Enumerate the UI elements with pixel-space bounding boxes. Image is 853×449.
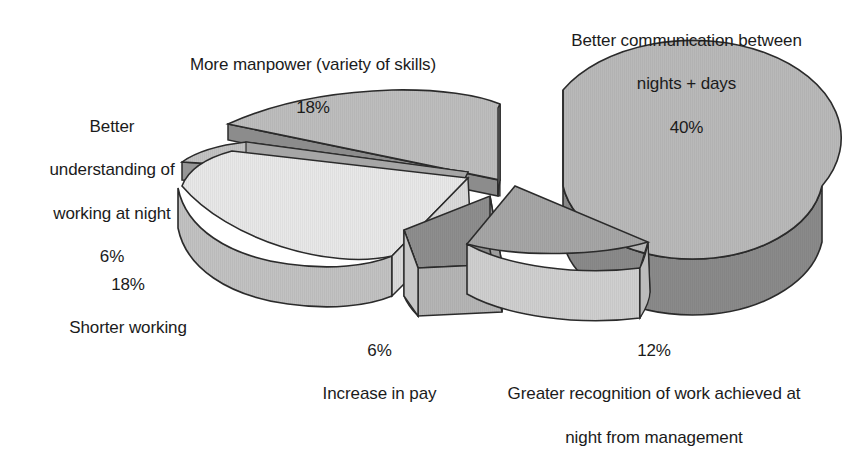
label-line-1: More manpower (variety of skills): [190, 55, 436, 74]
label-percent: 18%: [18, 274, 238, 296]
label-line-2: understanding of: [49, 160, 174, 179]
label-line-1: Shorter working: [69, 318, 187, 337]
slice-label-greater-recognition: 12% Greater recognition of work achieved…: [455, 318, 853, 449]
label-line-1: Better: [90, 117, 135, 136]
slice-label-better-communication: Better communication between nights + da…: [520, 8, 853, 160]
slice-more-manpower-rightwall: [498, 104, 500, 196]
label-line-1: Greater recognition of work achieved at: [508, 384, 801, 403]
label-percent: 12%: [455, 340, 853, 362]
label-line-3: working at night: [53, 204, 170, 223]
slice-label-shorter-working: 18% Shorter working: [18, 252, 238, 339]
label-line-1: Increase in pay: [323, 384, 437, 403]
label-line-2: night from management: [565, 428, 742, 447]
label-line-1: Better communication between: [571, 31, 802, 50]
label-percent: 40%: [520, 117, 853, 139]
label-line-2: nights + days: [637, 74, 736, 93]
